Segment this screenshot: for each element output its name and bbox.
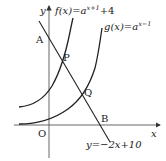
- graph-figure: y x O A P Q B f(x)=ax+1+4 g(x)=ax−1 y=−2…: [0, 0, 166, 161]
- y-axis-label: y: [39, 5, 46, 16]
- curve-g: [19, 28, 102, 124]
- point-p-label: P: [63, 52, 70, 63]
- x-axis-label: x: [151, 128, 157, 139]
- origin-label: O: [38, 128, 46, 139]
- curve-f-label: f(x)=ax+1+4: [54, 4, 114, 16]
- point-b-label: B: [101, 113, 108, 124]
- point-a-label: A: [35, 34, 44, 45]
- curve-g-label: g(x)=ax−1: [104, 20, 151, 32]
- line-label: y=−2x+10: [85, 139, 142, 150]
- graph-canvas: y x O A P Q B f(x)=ax+1+4 g(x)=ax−1 y=−2…: [0, 0, 166, 161]
- point-q-label: Q: [84, 87, 92, 98]
- line-y-minus-2x-plus-10: [39, 21, 110, 142]
